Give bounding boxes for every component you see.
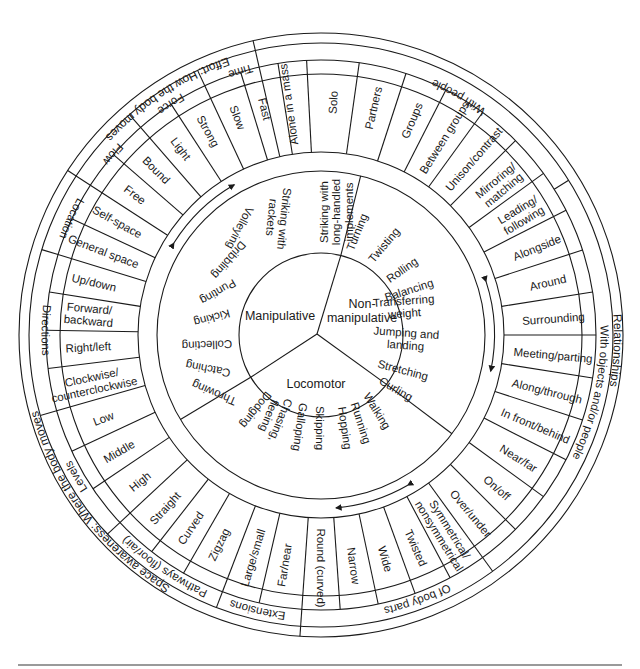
item-divider [359, 514, 378, 604]
concept-item: Fast [256, 97, 273, 122]
concept-item: Self-space [91, 204, 144, 241]
concept-item: Solo [327, 91, 340, 115]
concept-item: High [127, 470, 153, 494]
concept-item: Round (curved) [315, 528, 327, 607]
skill-label: Punting [198, 277, 238, 307]
core-label-locomotor: Locomotor [286, 377, 345, 391]
concept-item: Clockwise/counterclockwise [48, 362, 139, 404]
item-divider [259, 513, 280, 603]
skill-label: Striking withrackets [263, 186, 294, 250]
skill-label: Galloping [291, 402, 310, 452]
concept-item: Along/through [511, 377, 583, 406]
category-divider [300, 626, 301, 636]
concept-item: Partners [363, 85, 385, 130]
category-divider [68, 171, 76, 176]
concept-item: Slow [227, 104, 247, 132]
concept-item: Leading/following [495, 193, 546, 237]
concept-item: Right/left [65, 340, 112, 354]
concept-item: Forward/backward [63, 300, 114, 329]
group-divider [107, 523, 119, 535]
concept-item: Surrounding [522, 311, 585, 327]
concept-item: Wide [376, 545, 395, 573]
group-divider [483, 557, 493, 571]
concept-item: Strong [195, 113, 222, 148]
concept-item: Twisted [402, 528, 429, 569]
group-divider [76, 176, 90, 185]
group-divider [216, 592, 222, 608]
skill-label: Skipping [314, 406, 326, 450]
category-divider [253, 41, 255, 51]
concept-item: Middle [102, 438, 137, 465]
concept-item: On/off [481, 473, 513, 503]
group-divider [40, 411, 56, 416]
concept-item: Near/far [498, 442, 540, 474]
item-divider [378, 73, 406, 160]
concept-item: General space [66, 232, 140, 270]
effort-to-manipulative-arrow [174, 185, 234, 243]
skill-label: Collecting [182, 338, 233, 352]
core-divider [251, 334, 317, 377]
skill-label: Kicking [193, 307, 232, 328]
footer-rule [18, 664, 622, 666]
group-divider [554, 180, 568, 189]
skill-label: Rolling [384, 255, 420, 285]
concept-item: Groups [399, 101, 425, 141]
concept-item: Light [168, 135, 193, 163]
concept-item: In front/behind [499, 406, 571, 446]
group-divider [301, 609, 302, 626]
skill-label: Catching [185, 359, 232, 379]
group-label: Extensions [228, 598, 286, 623]
concept-item: Up/down [71, 272, 118, 294]
skill-label: Twisting [366, 225, 402, 265]
concept-item: Narrow [345, 547, 362, 586]
skill-label: Hopping [336, 406, 354, 450]
concept-item: Large/small [238, 528, 267, 588]
group-divider [255, 50, 259, 67]
concept-item: Far/near [275, 543, 294, 588]
concept-item: Low [91, 409, 116, 428]
movement-framework-wheel: ManipulativeNon-manipulativeLocomotor St… [0, 0, 640, 669]
skill-label: Throwing [190, 378, 238, 408]
concept-item: Zigzag [206, 526, 232, 562]
concept-item: Alongside [511, 233, 562, 263]
item-divider [495, 250, 582, 278]
relationships-to-nonmanip-arrow [486, 281, 494, 371]
core-label-manipulative: Manipulative [245, 309, 315, 323]
concept-item: Straight [147, 489, 183, 527]
group-label: Time [227, 62, 254, 81]
group-divider [42, 250, 58, 255]
concept-item: Around [529, 273, 568, 293]
group-label: Directions [39, 304, 53, 356]
skill-label: Jumping andlanding [372, 324, 439, 353]
skill-themes-core: ManipulativeNon-manipulativeLocomotor [245, 255, 397, 391]
concept-item: Free [122, 183, 148, 207]
